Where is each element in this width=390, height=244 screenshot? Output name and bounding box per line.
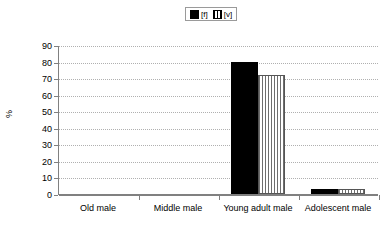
y-axis-title: %: [4, 110, 14, 118]
y-tick-label-70: 70: [24, 75, 52, 84]
legend-item-f: [f]: [190, 10, 208, 19]
x-tick-mark-1: [139, 195, 140, 200]
chart-legend: [f] [v]: [185, 7, 237, 21]
bar-v-3: [338, 189, 365, 194]
y-tick-mark-50: [54, 112, 58, 113]
bar-f-3: [311, 189, 338, 194]
x-tick-mark-end: [379, 195, 380, 200]
bar-groups: [59, 46, 378, 194]
solid-square-icon: [190, 10, 199, 19]
bar-v-2: [258, 75, 285, 194]
legend-label-f: [f]: [201, 10, 208, 19]
y-tick-label-80: 80: [24, 59, 52, 68]
x-tick-mark-3: [299, 195, 300, 200]
y-tick-mark-80: [54, 63, 58, 64]
bar-group-young-adult-male: [219, 46, 299, 194]
y-tick-mark-40: [54, 129, 58, 130]
y-tick-label-10: 10: [24, 174, 52, 183]
bar-group-middle-male: [139, 46, 219, 194]
plot-area: [58, 46, 378, 195]
x-axis-label-0: Old male: [58, 203, 138, 214]
y-tick-mark-90: [54, 46, 58, 47]
y-tick-mark-20: [54, 162, 58, 163]
y-tick-label-60: 60: [24, 92, 52, 101]
x-axis-label-2: Young adult male: [218, 203, 298, 214]
y-tick-label-50: 50: [24, 108, 52, 117]
bar-f-2: [231, 62, 258, 194]
hatched-square-icon: [213, 10, 222, 19]
x-axis-label-3: Adolescent male: [298, 203, 378, 214]
y-tick-label-20: 20: [24, 158, 52, 167]
y-tick-mark-70: [54, 79, 58, 80]
y-tick-mark-10: [54, 178, 58, 179]
legend-item-v: [v]: [213, 10, 232, 19]
y-tick-label-0: 0: [24, 191, 52, 200]
x-tick-mark-2: [219, 195, 220, 200]
bar-group-old-male: [59, 46, 139, 194]
x-axis-labels: Old maleMiddle maleYoung adult maleAdole…: [58, 203, 378, 214]
x-axis-label-1: Middle male: [138, 203, 218, 214]
y-tick-label-40: 40: [24, 125, 52, 134]
y-tick-mark-0: [54, 195, 58, 196]
y-tick-label-30: 30: [24, 141, 52, 150]
legend-label-v: [v]: [224, 10, 232, 19]
y-tick-mark-30: [54, 145, 58, 146]
bar-chart: [f] [v] % 0102030405060708090 Old maleMi…: [0, 0, 390, 244]
y-tick-label-90: 90: [24, 42, 52, 51]
bar-group-adolescent-male: [298, 46, 378, 194]
y-tick-mark-60: [54, 96, 58, 97]
